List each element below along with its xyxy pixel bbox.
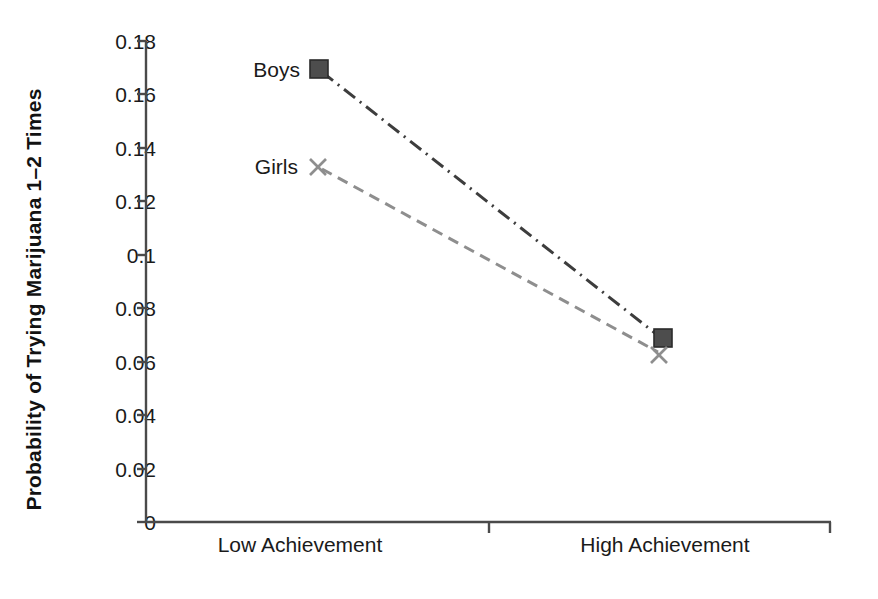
series-line-girls	[322, 169, 658, 352]
series-line-boys	[322, 72, 660, 337]
data-point-boys-high-achievement	[654, 329, 672, 347]
plot-area	[0, 0, 878, 599]
data-point-boys-low-achievement	[310, 60, 328, 78]
data-point-girls-low-achievement	[310, 159, 326, 175]
chart-figure: Probability of Trying Marijuana 1–2 Time…	[0, 0, 878, 599]
data-point-girls-high-achievement	[651, 347, 667, 363]
